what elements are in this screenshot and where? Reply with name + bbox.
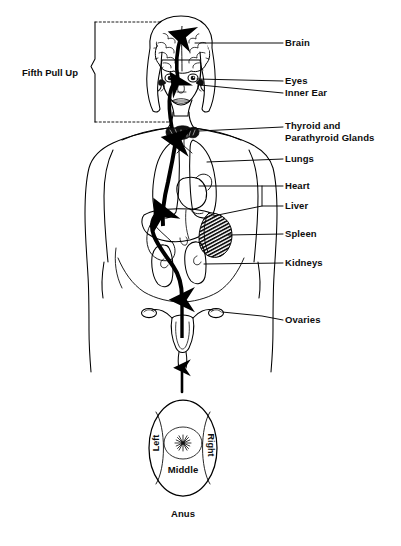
figure-canvas: Fifth Pull Up Brain Eyes Inner Ear Thyro… xyxy=(0,0,401,546)
heart xyxy=(177,174,212,214)
label-thyroid-line1: Thyroid and xyxy=(285,120,340,132)
label-liver: Liver xyxy=(285,200,308,212)
label-lungs: Lungs xyxy=(285,153,314,165)
anus-label-middle: Middle xyxy=(168,464,199,476)
anatomy-line-art xyxy=(0,0,401,546)
eyes xyxy=(168,76,173,81)
fifth-pull-up-label: Fifth Pull Up xyxy=(22,67,78,78)
anus-caption: Anus xyxy=(171,508,195,520)
label-heart: Heart xyxy=(285,180,310,192)
head-and-hair xyxy=(147,16,216,128)
anus-label-right: Right xyxy=(206,426,216,464)
label-ovaries: Ovaries xyxy=(285,314,321,326)
leader-lines xyxy=(195,43,283,320)
anus-label-left: Left xyxy=(151,426,161,460)
label-inner-ear: Inner Ear xyxy=(285,87,327,99)
label-spleen: Spleen xyxy=(285,228,317,240)
label-eyes: Eyes xyxy=(285,75,308,87)
label-brain: Brain xyxy=(285,37,310,49)
label-kidneys: Kidneys xyxy=(285,257,323,269)
label-parathyroid-line2: Parathyroid Glands xyxy=(285,132,374,144)
